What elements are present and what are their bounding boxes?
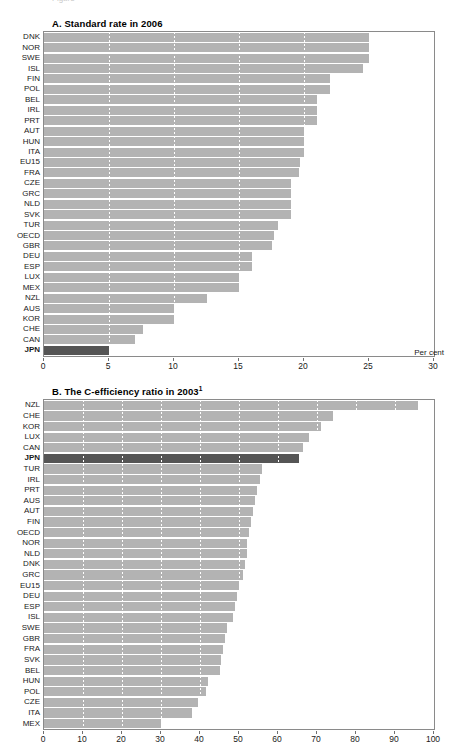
category-label-pol: POL (24, 688, 40, 696)
bar (44, 262, 252, 271)
bar (44, 200, 291, 209)
bar (44, 539, 247, 548)
category-label-tur: TUR (24, 221, 40, 229)
category-label-can: CAN (23, 444, 40, 452)
category-label-aut: AUT (24, 127, 40, 135)
category-label-irl: IRL (28, 106, 40, 114)
category-label-bel: BEL (25, 96, 40, 104)
x-tick-label: 50 (233, 734, 242, 744)
x-tick-label: 30 (428, 361, 437, 371)
bar (44, 666, 220, 675)
bar (44, 655, 221, 664)
category-label-swe: SWE (22, 624, 40, 632)
bar (44, 106, 317, 115)
panel-a-title: A. Standard rate in 2006 (52, 18, 163, 29)
bar (44, 325, 143, 334)
x-tick-label: 90 (389, 734, 398, 744)
category-label-che: CHE (23, 412, 40, 420)
gridline (278, 400, 279, 729)
x-tick-label: 0 (41, 734, 46, 744)
category-label-eu15: EU15 (20, 582, 40, 590)
gridline (161, 400, 162, 729)
gridline (304, 32, 305, 356)
category-label-irl: IRL (28, 476, 40, 484)
category-label-oecd: OECD (17, 232, 40, 240)
category-label-aut: AUT (24, 507, 40, 515)
category-label-nor: NOR (22, 44, 40, 52)
bar (44, 189, 291, 198)
bar (44, 294, 207, 303)
category-label-kor: KOR (23, 423, 40, 431)
category-label-swe: SWE (22, 54, 40, 62)
panel-a-bar-rows: DNKNORSWEISLFINPOLBELIRLPRTAUTHUNITAEU15… (44, 32, 434, 356)
x-tick-label: 30 (155, 734, 164, 744)
panel-b-title-footnote-marker: 1 (199, 385, 203, 392)
bar (44, 64, 363, 73)
panel-a-plot-area: DNKNORSWEISLFINPOLBELIRLPRTAUTHUNITAEU15… (43, 31, 435, 361)
category-label-dnk: DNK (23, 33, 40, 41)
gridline (200, 400, 201, 729)
x-tick-label: 10 (168, 361, 177, 371)
bar (44, 592, 237, 601)
bar (44, 74, 330, 83)
panel-b-title: B. The C-efficiency ratio in 20031 (52, 385, 202, 397)
panel-a-units-label: Per cent (414, 348, 444, 357)
bar (44, 560, 245, 569)
bar (44, 210, 291, 219)
category-label-oecd: OECD (17, 529, 40, 537)
category-label-che: CHE (23, 325, 40, 333)
category-label-esp: ESP (24, 603, 40, 611)
bar (44, 221, 278, 230)
category-label-svk: SVK (24, 211, 40, 219)
gridline (174, 32, 175, 356)
panel-a-x-axis: 051015202530 (43, 358, 433, 374)
category-label-lux: LUX (24, 433, 40, 441)
category-label-nzl: NZL (25, 294, 40, 302)
category-label-gbr: GBR (23, 635, 40, 643)
category-label-ita: ITA (28, 709, 40, 717)
bar (44, 687, 206, 696)
bar (44, 496, 255, 505)
bar (44, 528, 249, 537)
bar (44, 335, 135, 344)
bar (44, 708, 192, 717)
category-label-prt: PRT (24, 117, 40, 125)
bar (44, 645, 223, 654)
bar (44, 517, 251, 526)
bar (44, 602, 235, 611)
panel-b-plot-area: NZLCHEKORLUXCANJPNTURIRLPRTAUSAUTFINOECD… (43, 399, 435, 734)
category-label-can: CAN (23, 336, 40, 344)
x-tick-label: 100 (426, 734, 440, 744)
category-label-grc: GRC (22, 571, 40, 579)
category-label-fin: FIN (27, 518, 40, 526)
category-label-bel: BEL (25, 667, 40, 675)
gridline (356, 400, 357, 729)
x-tick-label: 70 (311, 734, 320, 744)
bar (44, 283, 239, 292)
bar (44, 570, 243, 579)
category-label-nld: NLD (24, 550, 40, 558)
category-label-aus: AUS (24, 497, 40, 505)
bar (44, 677, 208, 686)
category-label-nor: NOR (22, 539, 40, 547)
gridline (109, 32, 110, 356)
bar (44, 95, 317, 104)
category-label-deu: DEU (23, 592, 40, 600)
category-label-esp: ESP (24, 263, 40, 271)
category-label-fin: FIN (27, 75, 40, 83)
bar (44, 581, 239, 590)
category-label-lux: LUX (24, 273, 40, 281)
x-tick-label: 80 (350, 734, 359, 744)
gridline (317, 400, 318, 729)
gridline (395, 400, 396, 729)
bar (44, 475, 260, 484)
category-label-isl: ISL (28, 65, 40, 73)
bar (44, 33, 369, 42)
category-label-aus: AUS (24, 305, 40, 313)
x-tick-label: 20 (298, 361, 307, 371)
bar (44, 401, 418, 410)
clipped-figure-header: Figure (52, 0, 432, 6)
category-label-jpn: JPN (24, 346, 40, 354)
category-label-cze: CZE (24, 698, 40, 706)
category-label-ita: ITA (28, 148, 40, 156)
